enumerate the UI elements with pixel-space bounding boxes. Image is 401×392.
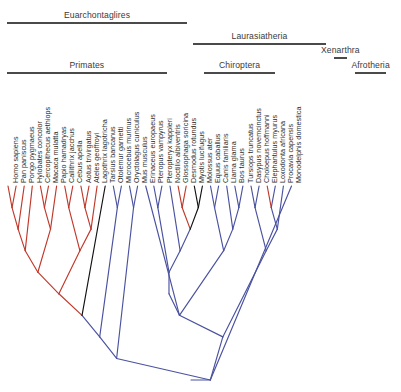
tree-branch <box>65 186 69 208</box>
tree-branch <box>224 229 233 251</box>
tree-branch <box>38 229 51 272</box>
tree-branch <box>198 186 202 208</box>
tree-branch <box>154 186 158 208</box>
tree-branch <box>25 186 32 251</box>
tree-branch <box>69 208 80 251</box>
tree-branch <box>194 186 198 208</box>
tree-branch <box>170 186 180 251</box>
tree-branch <box>178 186 182 208</box>
clade-label-afrotheria: Afrotheria <box>352 60 390 70</box>
clade-rule-afrotheria <box>355 72 386 74</box>
tree-branch <box>117 208 134 359</box>
tree-branch <box>239 186 243 208</box>
tree-branch <box>100 208 118 337</box>
tree-branch <box>130 186 134 208</box>
tree-branch <box>85 186 89 208</box>
tree-branch <box>210 337 223 380</box>
tree-branch <box>180 229 190 251</box>
tree-branch <box>44 186 48 208</box>
tree-branch <box>117 358 211 380</box>
tree-branch <box>223 251 266 337</box>
tree-branch <box>18 229 25 251</box>
tree-branch <box>85 208 91 230</box>
tree-branch <box>267 186 271 208</box>
tree-branch <box>80 229 91 251</box>
tree-branch <box>12 186 16 208</box>
clade-label-laurasiatheria: Laurasiatheria <box>232 31 288 41</box>
tree-branch <box>25 251 38 273</box>
taxon-label: Monodelphis domestica <box>294 106 303 183</box>
tree-branch <box>8 186 12 208</box>
tree-branch <box>179 315 222 337</box>
clade-rule-xenarthra <box>334 57 347 59</box>
tree-branch <box>100 337 117 359</box>
tree-branch <box>190 208 198 230</box>
tree-branch <box>12 208 18 230</box>
tree-branch <box>18 186 24 229</box>
tree-branch <box>59 251 80 294</box>
tree-branch <box>227 186 233 229</box>
tree-branch <box>51 186 57 229</box>
tree-branch <box>59 294 82 316</box>
clade-rule-euarchontoglires <box>7 22 187 24</box>
tree-branch <box>233 208 239 230</box>
clade-rule-chiroptera <box>204 72 275 74</box>
clade-label-xenarthra: Xenarthra <box>321 45 360 55</box>
phylogenetic-tree-canvas <box>0 0 401 392</box>
tree-branch <box>169 251 180 273</box>
tree-branch <box>158 186 162 208</box>
clade-label-chiroptera: Chiroptera <box>219 60 260 70</box>
tree-branch <box>117 186 121 208</box>
tree-branch <box>69 186 73 208</box>
tree-branch <box>82 315 100 337</box>
tree-branch <box>255 208 266 251</box>
tree-branch <box>179 251 223 316</box>
tree-branch <box>182 208 190 230</box>
tree-branch <box>113 186 117 208</box>
tree-branches <box>8 186 292 380</box>
tree-branch <box>91 186 97 229</box>
clade-rule-laurasiatheria <box>193 43 326 45</box>
tree-branch <box>134 186 138 208</box>
tree-branch <box>235 186 239 208</box>
clade-rule-primates <box>7 72 167 74</box>
tree-branch <box>251 186 255 208</box>
tree-branch <box>44 208 50 230</box>
tree-branch <box>215 186 219 208</box>
tree-branch <box>182 186 186 208</box>
tree-branch <box>271 186 275 208</box>
tree-branch <box>255 186 259 208</box>
clade-label-euarchontoglires: Euarchontaglires <box>64 10 130 20</box>
tree-branch <box>210 186 291 380</box>
tree-branch <box>40 186 44 208</box>
tree-branch <box>146 186 180 315</box>
tree-branch <box>215 208 224 251</box>
tree-branch <box>211 186 215 208</box>
clade-label-primates: Primates <box>70 60 105 70</box>
tree-branch <box>38 272 59 294</box>
tree-branch <box>81 186 85 208</box>
